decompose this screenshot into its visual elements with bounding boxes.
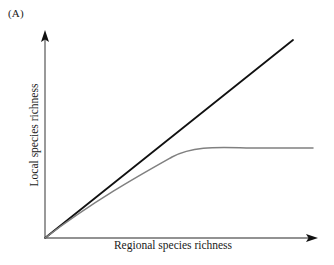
x-axis-label-text: Regional species richness [114, 239, 232, 251]
series-curve-type-ii [45, 147, 313, 238]
plot-area [0, 0, 334, 265]
figure-panel-a: (A) Regional species richness Local spec… [0, 0, 334, 265]
x-axis-label: Regional species richness [0, 239, 334, 251]
series-line-type-i [45, 40, 293, 238]
y-axis-label: Local species richness [28, 84, 40, 187]
